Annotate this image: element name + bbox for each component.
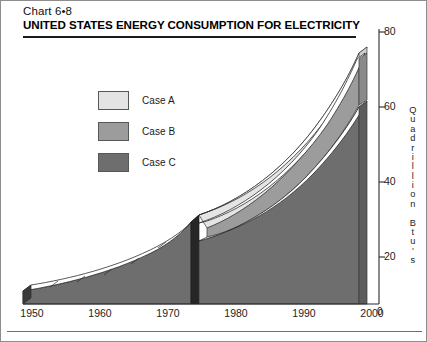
chart-legend: Case A Case B Case C xyxy=(98,89,176,182)
y-tick-20: 20 xyxy=(384,250,396,262)
case-c-right-cap xyxy=(359,101,367,304)
x-tick-1970: 1970 xyxy=(145,307,191,319)
y-tick-40: 40 xyxy=(384,175,396,187)
x-tick-1950: 1950 xyxy=(9,307,55,319)
y-axis-ticks xyxy=(379,32,385,257)
legend-label-case-a: Case A xyxy=(142,95,175,106)
legend-item-case-c[interactable]: Case C xyxy=(98,151,176,173)
legend-swatch-case-c xyxy=(98,153,129,172)
case-b-right-cap xyxy=(359,53,367,105)
x-tick-1990: 1990 xyxy=(281,307,327,319)
projection-divider xyxy=(191,215,199,304)
legend-swatch-case-b xyxy=(98,122,129,141)
legend-label-case-c: Case C xyxy=(142,157,176,168)
legend-item-case-a[interactable]: Case A xyxy=(98,89,176,111)
x-tick-1960: 1960 xyxy=(77,307,123,319)
legend-swatch-case-a xyxy=(98,91,129,110)
historical-front-face xyxy=(23,222,191,304)
legend-item-case-b[interactable]: Case B xyxy=(98,120,176,142)
y-tick-60: 60 xyxy=(384,100,396,112)
chart-plot-area xyxy=(1,1,427,342)
x-tick-1980: 1980 xyxy=(213,307,259,319)
y-tick-80: 80 xyxy=(384,25,396,37)
x-tick-2000: 2000 xyxy=(349,307,395,319)
bottom-divider xyxy=(7,331,422,332)
chart-frame: Chart 6•8 UNITED STATES ENERGY CONSUMPTI… xyxy=(0,0,427,342)
y-axis-title: Quadr illio n Btu 's xyxy=(405,106,421,265)
legend-label-case-b: Case B xyxy=(142,126,175,137)
